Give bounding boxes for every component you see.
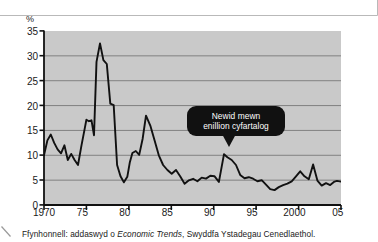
earnings-growth-line-chart: % 35 30 25 20 15 10 5 0	[0, 14, 357, 210]
y-axis-unit-label: %	[26, 14, 34, 24]
y-tick-label-30: 30	[12, 52, 38, 62]
footnote-prefix: Ffynhonnell: addaswyd o	[22, 229, 117, 239]
y-tick-label-25: 25	[12, 77, 38, 87]
y-tick-label-20: 20	[12, 102, 38, 112]
callout-text: Newid mewn enillion cyfartalog	[187, 106, 285, 136]
y-tick-label-10: 10	[12, 151, 38, 161]
callout-line-2: enillion cyfartalog	[203, 121, 269, 131]
footnote-source-title: Economic Trends	[117, 229, 182, 239]
footnote-suffix: , Swyddfa Ystadegau Cenedlaethol.	[182, 229, 315, 239]
chart-annotation-callout: Newid mewn enillion cyfartalog	[187, 106, 285, 136]
callout-line-1: Newid mewn	[212, 111, 260, 121]
source-footnote: Ffynhonnell: addaswyd o Economic Trends,…	[22, 229, 315, 240]
y-tick-label-15: 15	[12, 126, 38, 136]
y-tick-label-35: 35	[12, 27, 38, 37]
y-tick-label-5: 5	[12, 176, 38, 186]
page-frame-corner-tick	[1, 226, 12, 237]
